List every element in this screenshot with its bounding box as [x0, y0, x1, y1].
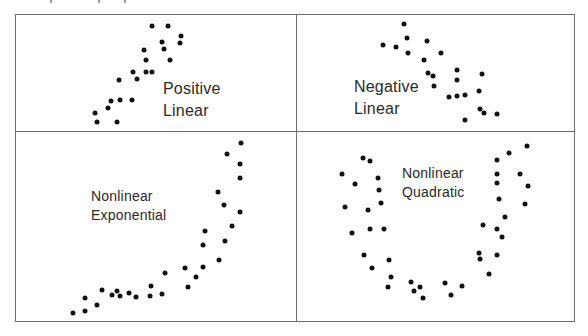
- label-negative-linear: Negative Linear: [354, 76, 419, 120]
- data-point: [482, 111, 487, 116]
- data-point: [477, 251, 482, 256]
- data-point: [144, 70, 149, 75]
- data-point: [340, 172, 345, 177]
- data-point: [422, 58, 427, 63]
- data-point: [495, 253, 500, 258]
- data-point: [353, 182, 358, 187]
- data-point: [160, 40, 165, 45]
- data-point: [449, 293, 454, 298]
- data-point: [487, 272, 492, 277]
- data-point: [525, 144, 530, 149]
- data-point: [361, 156, 366, 161]
- data-point: [402, 22, 407, 27]
- data-point: [526, 184, 531, 189]
- data-point: [406, 51, 411, 56]
- label-nonlinear-quadratic: Nonlinear Quadratic: [402, 164, 465, 202]
- data-point: [350, 231, 355, 236]
- data-point: [118, 98, 123, 103]
- data-point: [425, 39, 430, 44]
- data-point: [389, 275, 394, 280]
- data-point: [106, 106, 111, 111]
- data-point: [362, 253, 367, 258]
- data-point: [150, 24, 155, 29]
- data-point: [368, 227, 373, 232]
- data-point: [149, 284, 154, 289]
- data-point: [480, 72, 485, 77]
- data-point: [178, 41, 183, 46]
- data-point: [230, 224, 235, 229]
- data-point: [127, 291, 132, 296]
- data-point: [95, 303, 100, 308]
- data-point: [481, 223, 486, 228]
- data-point: [463, 118, 468, 123]
- data-point: [238, 176, 243, 181]
- data-point: [110, 293, 115, 298]
- horizontal-divider: [15, 131, 575, 132]
- label-line: Negative: [354, 76, 419, 98]
- data-point: [495, 158, 500, 163]
- data-point: [497, 197, 502, 202]
- data-point: [217, 258, 222, 263]
- data-point: [409, 280, 414, 285]
- data-point: [131, 70, 136, 75]
- data-point: [115, 289, 120, 294]
- data-point: [418, 285, 423, 290]
- data-point: [118, 294, 123, 299]
- cropped-caption-text: [0, 0, 588, 4]
- data-point: [144, 58, 149, 63]
- data-point: [439, 51, 444, 56]
- data-point: [394, 45, 399, 50]
- label-positive-linear: Positive Linear: [163, 78, 221, 122]
- data-point: [455, 78, 460, 83]
- data-point: [201, 265, 206, 270]
- data-point: [376, 176, 381, 181]
- data-point: [71, 311, 76, 316]
- data-point: [222, 203, 227, 208]
- data-point: [203, 229, 208, 234]
- data-point: [405, 36, 410, 41]
- label-line: Nonlinear: [91, 187, 166, 206]
- data-point: [495, 172, 500, 177]
- data-point: [130, 98, 135, 103]
- data-point: [379, 201, 384, 206]
- data-point: [109, 99, 114, 104]
- data-point: [477, 89, 482, 94]
- data-point: [238, 162, 243, 167]
- label-line: Exponential: [91, 206, 166, 225]
- data-point: [117, 78, 122, 83]
- data-point: [223, 239, 228, 244]
- data-point: [386, 285, 391, 290]
- data-point: [186, 285, 191, 290]
- data-point: [368, 159, 373, 164]
- data-point: [238, 210, 243, 215]
- data-point: [343, 205, 348, 210]
- data-point: [500, 235, 505, 240]
- data-point: [431, 74, 436, 79]
- data-point: [216, 190, 221, 195]
- data-point: [523, 202, 528, 207]
- data-point: [148, 294, 153, 299]
- data-point: [183, 266, 188, 271]
- data-point: [507, 151, 512, 156]
- data-point: [142, 48, 147, 53]
- data-point: [377, 188, 382, 193]
- data-point: [166, 24, 171, 29]
- data-point: [179, 34, 184, 39]
- data-point: [135, 77, 140, 82]
- label-line: Linear: [354, 98, 419, 120]
- data-point: [447, 95, 452, 100]
- scatter-grid-frame: [15, 14, 575, 322]
- data-point: [160, 292, 165, 297]
- data-point: [115, 120, 120, 125]
- data-point: [225, 152, 230, 157]
- data-point: [478, 257, 483, 262]
- label-nonlinear-exponential: Nonlinear Exponential: [91, 187, 166, 225]
- label-line: Linear: [163, 100, 221, 122]
- data-point: [518, 172, 523, 177]
- data-point: [455, 94, 460, 99]
- data-point: [421, 296, 426, 301]
- data-point: [495, 227, 500, 232]
- data-point: [150, 70, 155, 75]
- label-line: Nonlinear: [402, 164, 465, 183]
- data-point: [387, 258, 392, 263]
